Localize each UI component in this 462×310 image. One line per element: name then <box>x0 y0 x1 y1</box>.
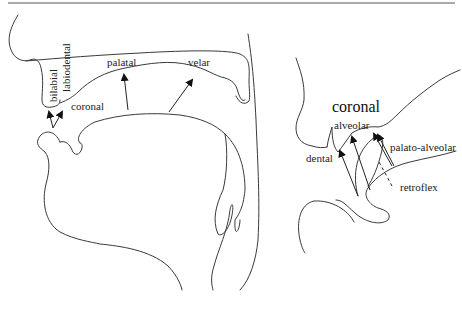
velar-arrow <box>169 80 192 112</box>
chin-outline <box>37 132 182 290</box>
labiodental-arrow <box>53 112 62 128</box>
upper-lip-outline <box>296 58 327 148</box>
label-alveolar: alveolar <box>334 119 370 131</box>
label-coronal-title: coronal <box>332 98 381 115</box>
epiglottis-outline <box>212 134 233 290</box>
alveolar-arrow <box>352 137 370 190</box>
vocal-tract-left: bilabial labiodental coronal palatal vel… <box>9 15 259 290</box>
palatal-arrow <box>124 75 128 110</box>
retroflex-dashed-line <box>378 160 392 186</box>
label-palatal: palatal <box>107 56 136 68</box>
articulation-places-diagram: bilabial labiodental coronal palatal vel… <box>0 0 462 310</box>
lower-lip-curl <box>60 142 82 155</box>
label-palato-alveolar: palato-alveolar <box>390 141 456 153</box>
tongue-outline <box>78 114 225 143</box>
label-coronal-left: coronal <box>71 100 104 112</box>
label-dental: dental <box>306 152 333 164</box>
tongue-underside-outline <box>336 188 389 223</box>
label-retroflex: retroflex <box>400 181 438 193</box>
label-velar: velar <box>188 56 210 68</box>
bilabial-arrow <box>49 112 53 128</box>
label-bilabial: bilabial <box>47 69 59 102</box>
lower-lip-outline <box>299 201 354 253</box>
tongue-back-outline <box>225 134 245 232</box>
coronal-detail-right: coronal alveolar dental palato-alveolar … <box>296 58 460 253</box>
palate-lower-outline <box>60 62 245 103</box>
label-labiodental: labiodental <box>60 43 72 92</box>
